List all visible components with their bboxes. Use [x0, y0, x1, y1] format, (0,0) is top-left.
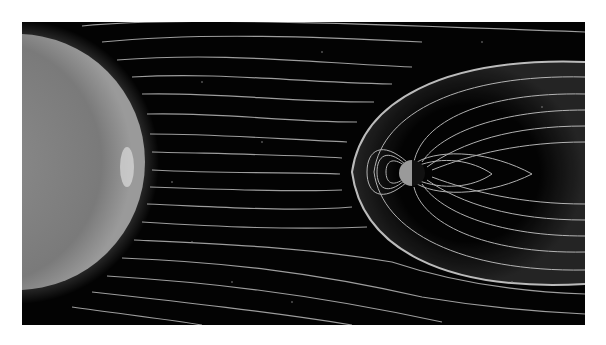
illustration-canvas: [22, 22, 585, 325]
space-illustration: Illustration of the Sun's solar wind mag…: [22, 22, 585, 325]
earth: [399, 160, 425, 186]
sun: [22, 22, 159, 304]
